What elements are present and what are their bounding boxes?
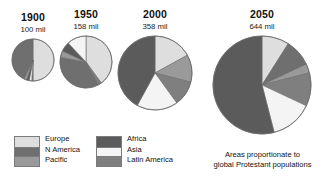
pie-year-label: 2050: [211, 8, 313, 20]
pie-year-label: 1950: [58, 8, 114, 20]
legend-label-pacific: Pacific: [45, 155, 80, 166]
pie-total-label: 358 mil: [116, 22, 194, 31]
figure-caption: Areas proportionate to global Protestant…: [196, 150, 329, 170]
pie-chart-2050: 2050644 milEurope 9%N America 9%Pacific …: [211, 8, 313, 136]
pie-canvas-1950: Europe 40%Latin America 2%N America 36%P…: [58, 34, 114, 90]
legend-swatch-asia: [97, 147, 121, 157]
pie-canvas-2000: Europe 17%Pacific 12%Latin America 11%As…: [116, 34, 194, 112]
figure-caption-line-2: global Protestant populations: [196, 160, 329, 170]
legend-swatch-n-america: [15, 147, 39, 157]
legend-swatch-stack: [14, 136, 40, 167]
pie-chart-1950: 1950158 milEurope 40%Latin America 2%N A…: [58, 8, 114, 90]
legend-swatch-pacific: [15, 156, 39, 166]
legend-swatch-africa: [97, 137, 121, 147]
legend-swatch-europe: [15, 137, 39, 147]
pie-canvas-1900: Europe 50%Latin America 1%Asia 2%Africa …: [10, 37, 56, 83]
pie-chart-1900: 1900100 milEurope 50%Latin America 1%Asi…: [10, 11, 56, 83]
pie-slice-europe: Europe 50%: [33, 39, 54, 81]
protestant-population-pie-figure: 1900100 milEurope 50%Latin America 1%Asi…: [0, 0, 329, 181]
pie-total-label: 100 mil: [10, 25, 56, 34]
pie-total-label: 644 mil: [211, 22, 313, 31]
figure-caption-line-1: Areas proportionate to: [196, 150, 329, 160]
legend-label-europe: Europe: [45, 134, 80, 145]
pie-chart-2000: 2000358 milEurope 17%Pacific 12%Latin Am…: [116, 8, 194, 112]
pie-year-label: 1900: [10, 11, 56, 23]
pie-canvas-2050: Europe 9%N America 9%Pacific 3%Latin Ame…: [211, 34, 313, 136]
legend-swatch-latin-america: [97, 156, 121, 166]
legend-label-latin-america: Latin America: [127, 155, 173, 166]
pie-total-label: 158 mil: [58, 22, 114, 31]
legend-label-n-america: N America: [45, 145, 80, 156]
legend-label-asia: Asia: [127, 145, 173, 156]
legend-swatch-stack: [96, 136, 122, 167]
pie-year-label: 2000: [116, 8, 194, 20]
legend-label-stack: Africa Asia Latin America: [127, 134, 173, 166]
legend-label-stack: Europe N America Pacific: [45, 134, 80, 166]
legend-label-africa: Africa: [127, 134, 173, 145]
